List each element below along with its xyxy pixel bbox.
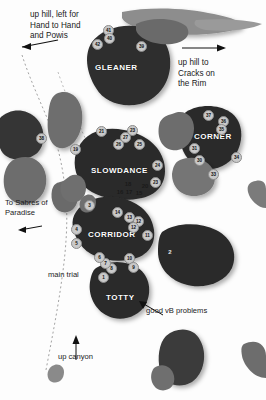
climbing-topo-map: GLEANER SLOWDANCE CORNER CORRIDOR TOTTY … [0,0,266,400]
direction-arrows [0,0,266,400]
